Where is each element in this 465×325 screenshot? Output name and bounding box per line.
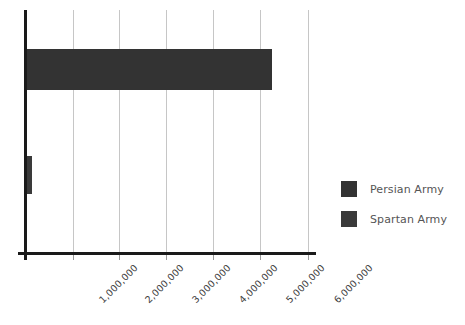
x-tick-label-1: 1,000,000 (97, 262, 140, 305)
tick-mark-1000000 (73, 255, 74, 260)
x-tick-label-4: 4,000,000 (237, 262, 280, 305)
tick-mark-4000000 (213, 255, 214, 260)
x-tick-label-5: 5,000,000 (284, 262, 327, 305)
gridline-1000000 (73, 10, 74, 253)
gridline-6000000 (308, 10, 309, 253)
legend-item-spartan-army[interactable]: Spartan Army (341, 211, 447, 227)
legend-swatch-persian-army (341, 181, 357, 197)
gridline-2000000 (119, 10, 120, 253)
legend-label-persian-army: Persian Army (370, 183, 444, 196)
bar-persian-army[interactable] (26, 49, 272, 90)
legend-label-spartan-army: Spartan Army (370, 213, 447, 226)
y-axis-line (24, 10, 27, 260)
gridline-3000000 (166, 10, 167, 253)
x-axis-line (18, 252, 316, 255)
legend-swatch-spartan-army (341, 211, 357, 227)
tick-mark-3000000 (166, 255, 167, 260)
gridline-4000000 (213, 10, 214, 253)
x-tick-label-3: 3,000,000 (190, 262, 233, 305)
x-tick-label-2: 2,000,000 (143, 262, 186, 305)
tick-mark-2000000 (119, 255, 120, 260)
x-tick-label-6: 6,000,000 (332, 262, 375, 305)
bar-chart: 1,000,000 2,000,000 3,000,000 4,000,000 … (0, 0, 465, 325)
gridline-5000000 (260, 10, 261, 253)
tick-mark-6000000 (308, 255, 309, 260)
legend-item-persian-army[interactable]: Persian Army (341, 181, 444, 197)
bar-spartan-army[interactable] (26, 156, 32, 194)
tick-mark-5000000 (260, 255, 261, 260)
